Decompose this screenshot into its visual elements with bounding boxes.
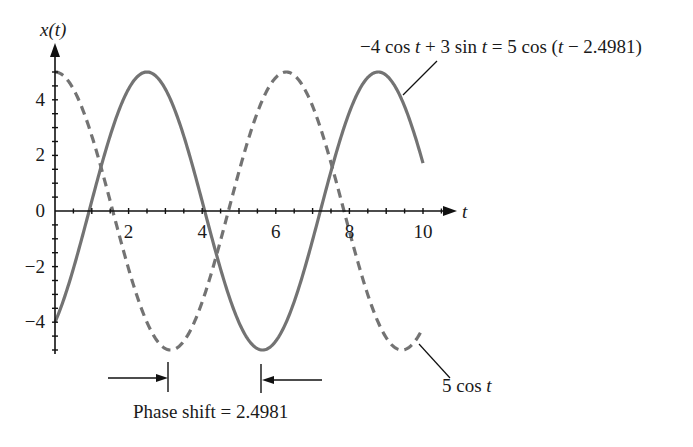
y-tick-label: 2	[36, 144, 46, 165]
phase-shift-marker	[108, 362, 322, 393]
x-tick-label: 4	[197, 221, 207, 242]
phase-left-arrow-icon	[156, 374, 168, 382]
y-axis-label: x(t)	[39, 19, 66, 41]
y-tick-label: 4	[36, 89, 46, 110]
x-minor-ticks	[73, 208, 441, 214]
y-axis-arrow-icon	[50, 43, 60, 57]
x-tick-labels: 246810	[124, 221, 433, 242]
dashed-curve-leader-line	[419, 344, 450, 378]
dashed-curve-label: 5 cos t	[442, 375, 492, 396]
x-tick-label: 2	[124, 221, 134, 242]
phase-shift-chart: 246810 −4−2024 x(t) t −4 cos t + 3 sin t…	[0, 0, 693, 447]
solid-curve-leader-line	[403, 61, 437, 95]
y-tick-label: 0	[36, 200, 46, 221]
x-axis-arrow-icon	[443, 206, 457, 216]
x-tick-label: 6	[271, 221, 281, 242]
phase-right-arrow-icon	[262, 376, 274, 384]
y-tick-labels: −4−2024	[25, 89, 46, 332]
y-tick-label: −2	[25, 256, 45, 277]
solid-curve-label: −4 cos t + 3 sin t = 5 cos (t − 2.4981)	[360, 36, 642, 58]
x-tick-label: 8	[345, 221, 355, 242]
x-tick-label: 10	[414, 221, 433, 242]
y-tick-label: −4	[25, 311, 46, 332]
x-axis-label: t	[462, 201, 468, 222]
phase-shift-label: Phase shift = 2.4981	[133, 401, 288, 422]
